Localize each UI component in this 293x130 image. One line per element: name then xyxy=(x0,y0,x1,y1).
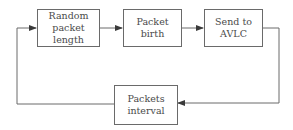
flow-diagram: Random packet length Packet birth Send t… xyxy=(0,0,293,130)
node-label: Packet birth xyxy=(136,16,168,40)
node-packet-birth: Packet birth xyxy=(123,9,182,47)
node-packets-interval: Packets interval xyxy=(114,85,178,125)
node-label: Random packet length xyxy=(38,10,99,46)
node-random-packet-length: Random packet length xyxy=(37,9,100,47)
node-label: Packets interval xyxy=(127,93,164,117)
node-label: Send to AVLC xyxy=(215,16,252,40)
node-send-to-avlc: Send to AVLC xyxy=(204,9,263,47)
